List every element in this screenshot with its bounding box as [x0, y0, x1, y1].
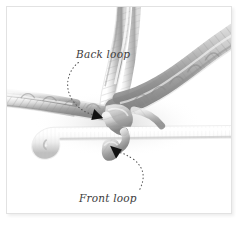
front-loop-label: Front loop — [79, 192, 137, 204]
figure-frame: Back loop Front loop — [6, 6, 232, 214]
back-loop-label: Back loop — [76, 48, 130, 60]
crochet-illustration — [7, 7, 231, 213]
crochet-loops-figure: Back loop Front loop — [0, 0, 244, 226]
